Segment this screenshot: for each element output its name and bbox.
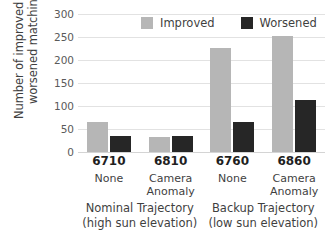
- legend-swatch-improved: [141, 17, 153, 29]
- y-axis-title-line-1: Number of improved and: [12, 0, 26, 119]
- super-group-line: (low sun elevation): [193, 216, 331, 231]
- bar-6710-worsened: [110, 136, 131, 152]
- bar-chart: Number of improved and worsened matching…: [0, 0, 331, 240]
- legend-entry-improved: Improved: [141, 17, 215, 29]
- bar-6760-improved: [210, 48, 231, 152]
- x-condition-label-6860: CameraAnomaly: [254, 172, 331, 198]
- legend-label-worsened: Worsened: [260, 17, 317, 29]
- y-axis-title: Number of improved and worsened matching: [9, 0, 43, 128]
- bar-6760-worsened: [233, 122, 254, 152]
- super-group-line: Nominal Trajectory: [70, 201, 210, 216]
- super-group-backup-trajectory: Backup Trajectory(low sun elevation): [193, 201, 331, 231]
- super-group-line: (high sun elevation): [70, 216, 210, 231]
- x-group-6860: 6860CameraAnomaly: [254, 154, 331, 198]
- bar-6860-improved: [272, 36, 293, 152]
- x-condition-line: Anomaly: [254, 185, 331, 198]
- legend-swatch-worsened: [241, 17, 253, 29]
- bar-6860-worsened: [295, 100, 316, 152]
- x-condition-line: Anomaly: [131, 185, 211, 198]
- super-group-nominal-trajectory: Nominal Trajectory(high sun elevation): [70, 201, 210, 231]
- bars-layer: [78, 14, 325, 152]
- y-tick-label-50: 50: [61, 124, 74, 134]
- bar-6710-improved: [87, 122, 108, 152]
- legend-label-improved: Improved: [160, 17, 215, 29]
- y-axis-tick-labels: 050100150200250300: [44, 0, 74, 160]
- y-tick-label-100: 100: [54, 101, 74, 111]
- plot-area: [78, 14, 325, 152]
- bar-6810-worsened: [172, 136, 193, 152]
- y-tick-label-200: 200: [54, 55, 74, 65]
- x-axis-super-labels: Nominal Trajectory(high sun elevation)Ba…: [70, 201, 328, 237]
- super-group-line: Backup Trajectory: [193, 201, 331, 216]
- y-axis-title-line-2: worsened matching: [26, 0, 40, 104]
- legend: ImprovedWorsened: [141, 17, 317, 29]
- x-orbit-label-6860: 6860: [254, 154, 331, 169]
- bar-6810-improved: [149, 137, 170, 152]
- gridline-0: [78, 152, 325, 153]
- legend-entry-worsened: Worsened: [241, 17, 317, 29]
- y-tick-label-300: 300: [54, 9, 74, 19]
- x-condition-line: Camera: [254, 172, 331, 185]
- y-tick-label-150: 150: [54, 78, 74, 88]
- y-tick-label-250: 250: [54, 32, 74, 42]
- x-axis-labels: 6710None6810CameraAnomaly6760None6860Cam…: [78, 154, 325, 200]
